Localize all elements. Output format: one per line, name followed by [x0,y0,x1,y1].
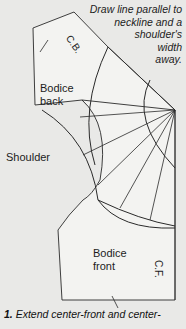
step-instruction: 1. Extend center-front and center- [4,308,161,320]
label-line: front [93,260,127,273]
caption-line: away. [52,53,182,66]
bodice-back-label: Bodice back [40,82,74,108]
step-number: 1. [4,308,13,320]
bodice-front-label: Bodice front [93,247,127,273]
step-text: Extend center-front and center- [13,308,161,320]
shoulder-label: Shoulder [6,151,50,164]
caption-line: neckline and a [52,16,182,29]
label-line: Bodice [93,247,127,260]
label-line: Bodice [40,82,74,95]
caption-line: Draw line parallel to [52,3,182,16]
label-line: back [40,95,74,108]
center-front-label: C.F. [153,260,164,278]
